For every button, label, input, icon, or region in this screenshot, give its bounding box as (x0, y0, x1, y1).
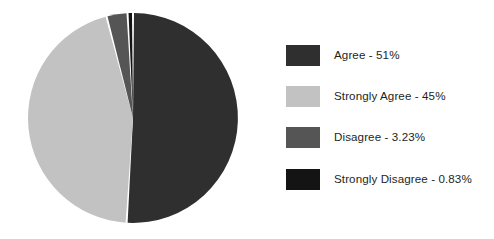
legend-item-disagree[interactable]: Disagree - 3.23% (286, 125, 425, 149)
legend-swatch-strongly-agree (286, 86, 320, 107)
chart-legend: Agree - 51% Strongly Agree - 45% Disagre… (286, 36, 492, 204)
legend-swatch-disagree (286, 127, 320, 148)
legend-item-agree[interactable]: Agree - 51% (286, 43, 400, 67)
legend-swatch-agree (286, 45, 320, 66)
legend-swatch-strongly-disagree (286, 169, 320, 190)
pie-chart-figure: Agree - 51% Strongly Agree - 45% Disagre… (0, 0, 494, 239)
legend-label-agree: Agree - 51% (334, 49, 400, 61)
legend-label-strongly-agree: Strongly Agree - 45% (334, 90, 446, 102)
pie-chart-svg (0, 0, 268, 239)
legend-item-strongly-agree[interactable]: Strongly Agree - 45% (286, 84, 446, 108)
legend-label-strongly-disagree: Strongly Disagree - 0.83% (334, 173, 472, 185)
pie-chart-plot-area (0, 0, 268, 239)
pie-slice-agree[interactable] (128, 13, 238, 223)
legend-item-strongly-disagree[interactable]: Strongly Disagree - 0.83% (286, 167, 472, 191)
pie-slice-group (28, 13, 238, 223)
legend-label-disagree: Disagree - 3.23% (334, 131, 425, 143)
